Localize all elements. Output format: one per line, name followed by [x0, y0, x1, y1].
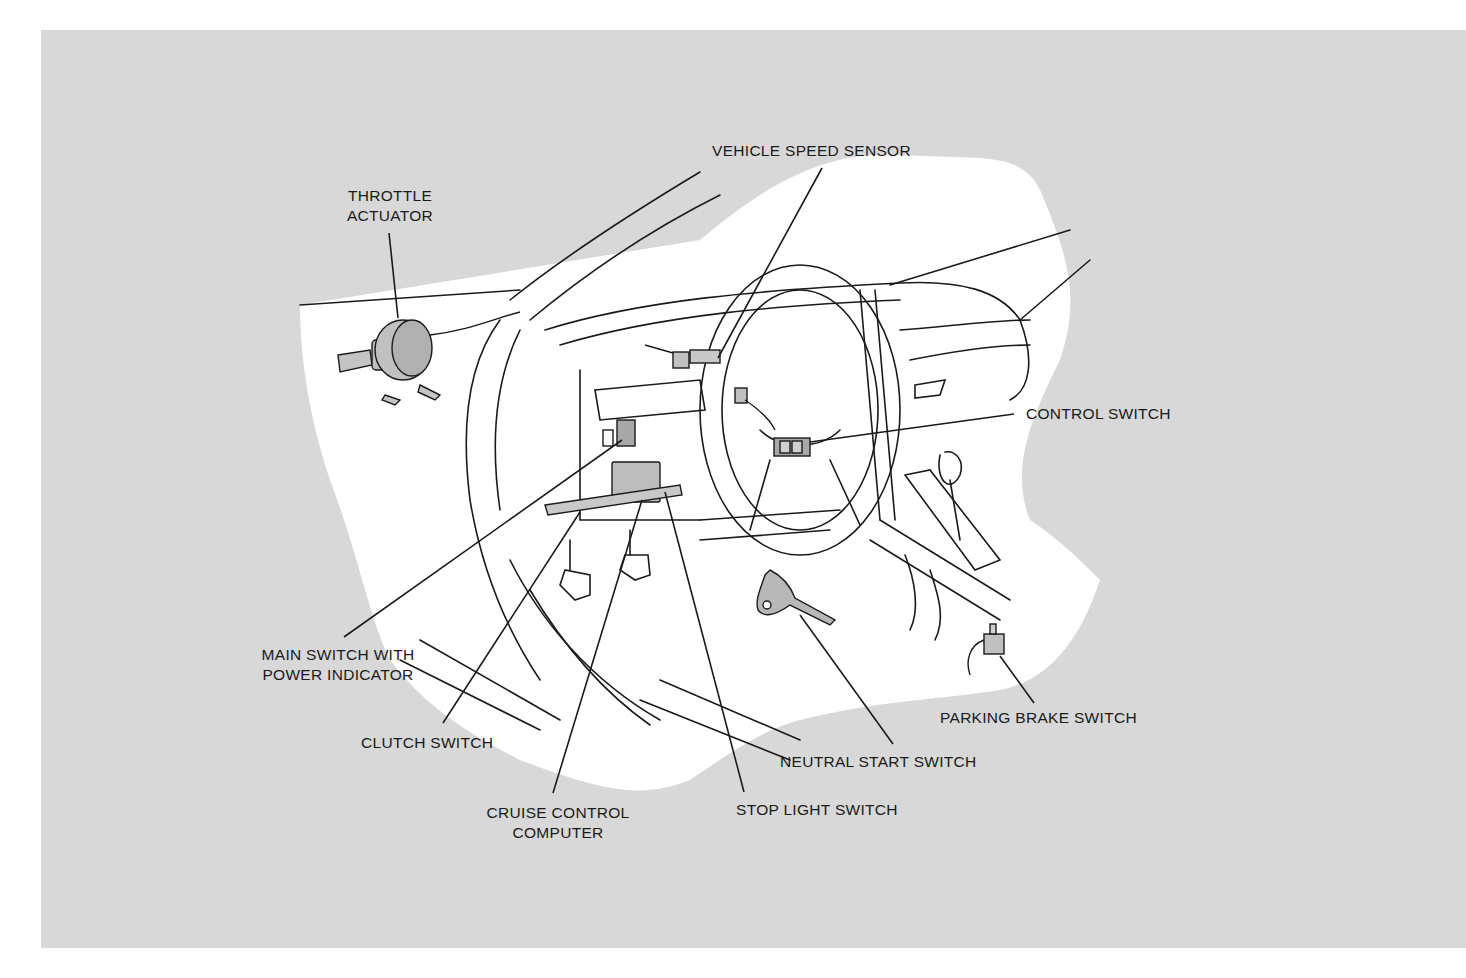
label-line: THROTTLE	[338, 186, 442, 206]
label-stop-light-switch: STOP LIGHT SWITCH	[736, 800, 898, 820]
label-clutch-switch: CLUTCH SWITCH	[361, 733, 493, 753]
label-line: POWER INDICATOR	[246, 665, 430, 685]
label-cruise-control-computer: CRUISE CONTROL COMPUTER	[480, 803, 636, 843]
label-line: ACTUATOR	[338, 206, 442, 226]
label-line: MAIN SWITCH WITH	[246, 645, 430, 665]
label-throttle-actuator: THROTTLE ACTUATOR	[338, 186, 442, 226]
label-control-switch: CONTROL SWITCH	[1026, 404, 1171, 424]
label-line: CRUISE CONTROL	[480, 803, 636, 823]
label-vehicle-speed-sensor: VEHICLE SPEED SENSOR	[712, 141, 911, 161]
label-parking-brake-switch: PARKING BRAKE SWITCH	[940, 708, 1137, 728]
label-main-switch: MAIN SWITCH WITH POWER INDICATOR	[246, 645, 430, 685]
cutaway-region	[300, 155, 1100, 791]
label-neutral-start-switch: NEUTRAL START SWITCH	[780, 752, 977, 772]
label-line: COMPUTER	[480, 823, 636, 843]
